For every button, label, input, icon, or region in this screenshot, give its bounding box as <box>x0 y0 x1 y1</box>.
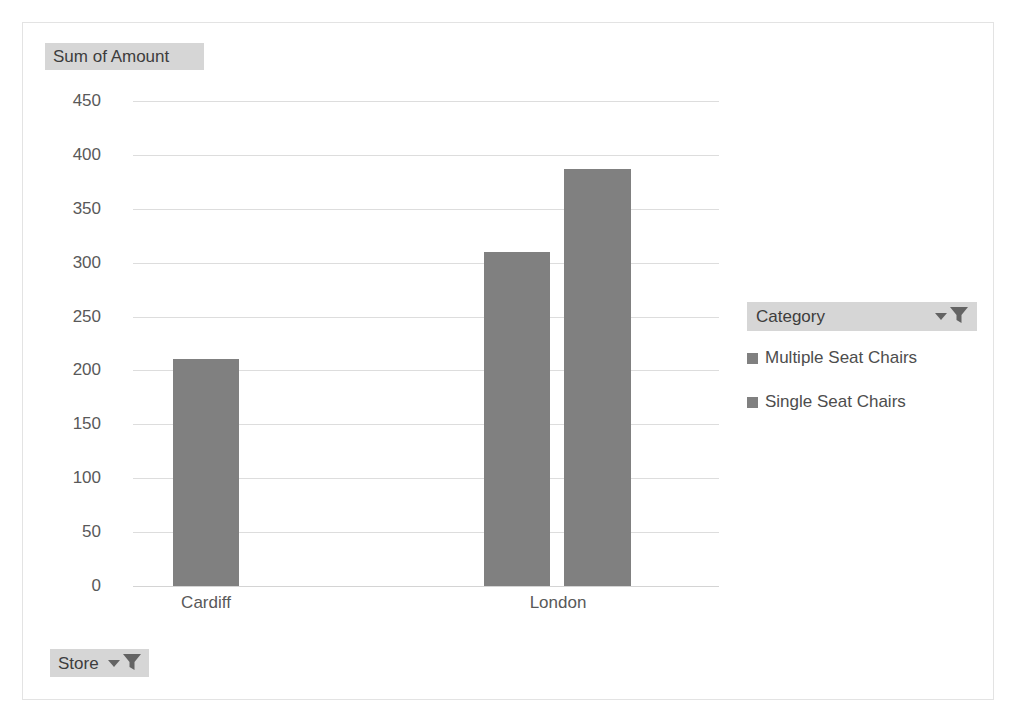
bar-cardiff-multiple-seat-chairs[interactable] <box>173 359 239 586</box>
y-axis-tick-label: 200 <box>23 360 101 380</box>
store-filter-button[interactable]: Store <box>50 649 149 677</box>
pivot-chart-frame: Sum of Amount 05010015020025030035040045… <box>22 22 994 700</box>
funnel-filter-icon[interactable] <box>121 652 143 675</box>
store-filter-icons[interactable] <box>108 652 143 675</box>
y-axis-tick-label: 0 <box>23 576 101 596</box>
bar-london-multiple-seat-chairs[interactable] <box>484 252 550 586</box>
y-axis-tick-label: 450 <box>23 91 101 111</box>
category-filter-button[interactable]: Category <box>747 302 977 331</box>
legend-item-label: Single Seat Chairs <box>765 392 906 412</box>
chevron-down-icon[interactable] <box>108 660 120 667</box>
legend-swatch-icon <box>747 353 758 364</box>
y-axis-tick-label: 50 <box>23 522 101 542</box>
x-axis-tick-label: Cardiff <box>126 593 286 613</box>
bar-london-single-seat-chairs[interactable] <box>564 169 631 586</box>
y-axis-tick-label: 300 <box>23 253 101 273</box>
y-axis-tick-label: 100 <box>23 468 101 488</box>
gridline <box>133 317 719 318</box>
filter-button-icons[interactable] <box>935 305 970 328</box>
y-axis-tick-label: 250 <box>23 307 101 327</box>
legend: Multiple Seat ChairsSingle Seat Chairs <box>747 343 987 431</box>
legend-item-label: Multiple Seat Chairs <box>765 348 917 368</box>
category-filter-label: Category <box>756 308 825 325</box>
gridline <box>133 263 719 264</box>
legend-item[interactable]: Multiple Seat Chairs <box>747 343 987 373</box>
y-axis-tick-label: 150 <box>23 414 101 434</box>
legend-item[interactable]: Single Seat Chairs <box>747 387 987 417</box>
gridline <box>133 155 719 156</box>
y-axis-tick-label: 350 <box>23 199 101 219</box>
funnel-filter-icon[interactable] <box>948 305 970 328</box>
gridline <box>133 101 719 102</box>
chevron-down-icon[interactable] <box>935 313 947 320</box>
y-axis-tick-label: 400 <box>23 145 101 165</box>
gridline <box>133 586 719 587</box>
gridline <box>133 209 719 210</box>
legend-swatch-icon <box>747 397 758 408</box>
store-filter-label: Store <box>58 655 99 672</box>
x-axis-tick-label: London <box>478 593 638 613</box>
